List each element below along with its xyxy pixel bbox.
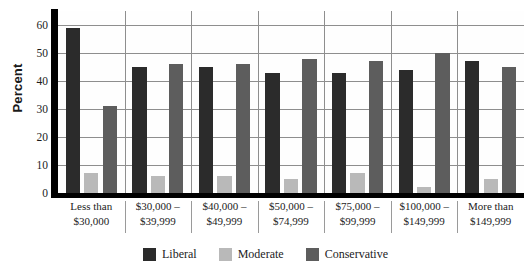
legend-swatch-icon xyxy=(143,248,156,261)
bar-group xyxy=(58,11,125,193)
bar-liberal xyxy=(66,28,80,193)
bar-group xyxy=(324,11,391,193)
bar-liberal xyxy=(399,70,413,193)
category-label: More than$149,999 xyxy=(457,199,524,229)
bar-moderate xyxy=(217,176,231,193)
bar-group xyxy=(457,11,524,193)
bar-moderate xyxy=(284,179,298,193)
category-label: $100,000 –$149,999 xyxy=(391,199,458,229)
bar-moderate xyxy=(84,173,98,193)
chart-legend: LiberalModerateConservative xyxy=(0,243,531,265)
bar-group xyxy=(125,11,192,193)
legend-label: Moderate xyxy=(238,248,284,261)
bar-group xyxy=(258,11,325,193)
category-label: $40,000 –$49,999 xyxy=(191,199,258,229)
y-tick-label: 30 xyxy=(2,104,48,114)
y-tick-label: 10 xyxy=(2,160,48,170)
y-axis-spine xyxy=(51,9,58,195)
legend-item-moderate: Moderate xyxy=(219,248,284,261)
legend-item-liberal: Liberal xyxy=(143,248,197,261)
bar-group xyxy=(191,11,258,193)
bar-liberal xyxy=(199,67,213,193)
bar-group xyxy=(391,11,458,193)
y-tick-label: 0 xyxy=(2,188,48,198)
y-tick-label: 40 xyxy=(2,76,48,86)
bar-liberal xyxy=(332,73,346,193)
bar-conservative xyxy=(502,67,516,193)
legend-item-conservative: Conservative xyxy=(306,248,388,261)
y-tick-label: 20 xyxy=(2,132,48,142)
category-label: $50,000 –$74,999 xyxy=(258,199,325,229)
bar-moderate xyxy=(350,173,364,193)
legend-swatch-icon xyxy=(219,248,232,261)
bar-conservative xyxy=(435,53,449,193)
category-label: $30,000 –$39,999 xyxy=(125,199,192,229)
bar-conservative xyxy=(236,64,250,193)
bar-conservative xyxy=(169,64,183,193)
bar-liberal xyxy=(265,73,279,193)
bar-conservative xyxy=(103,106,117,193)
bar-chart: Percent 0102030405060 Less than$30,000$3… xyxy=(0,0,531,277)
bar-moderate xyxy=(484,179,498,193)
bar-conservative xyxy=(369,61,383,193)
y-tick-label: 60 xyxy=(2,20,48,30)
category-label: $75,000 –$99,999 xyxy=(324,199,391,229)
y-tick-label: 50 xyxy=(2,48,48,58)
x-axis-spine xyxy=(51,193,524,198)
bar-moderate xyxy=(151,176,165,193)
bar-liberal xyxy=(132,67,146,193)
y-axis-tick-labels: 0102030405060 xyxy=(0,0,48,277)
plot-area xyxy=(58,11,524,193)
legend-label: Conservative xyxy=(325,248,388,261)
bar-liberal xyxy=(465,61,479,193)
bar-conservative xyxy=(302,59,316,193)
x-axis-category-labels: Less than$30,000$30,000 –$39,999$40,000 … xyxy=(58,199,524,235)
legend-swatch-icon xyxy=(306,248,319,261)
legend-label: Liberal xyxy=(162,248,197,261)
category-label: Less than$30,000 xyxy=(58,199,125,229)
